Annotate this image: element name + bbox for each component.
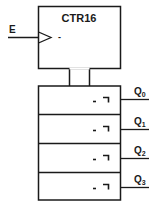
not-sign-icon [103,185,109,190]
output-q3-label: Q3 [134,174,146,186]
block-title: CTR16 [62,12,97,24]
output-q0-label: Q0 [134,86,146,98]
counter-diagram: CTR16 E - Q0 Q1 Q2 [0,0,159,208]
input-polarity-mark: - [58,32,61,42]
output-q2-label: Q2 [134,145,146,157]
clock-triangle-icon [39,32,52,43]
not-sign-icon [103,127,109,132]
not-sign-icon [103,98,109,103]
input-e: E - [8,24,61,43]
not-sign-icon [103,156,109,161]
output-stages [39,86,121,200]
input-e-label: E [9,24,16,35]
block-connector [70,69,90,87]
output-q1-label: Q1 [134,116,146,128]
